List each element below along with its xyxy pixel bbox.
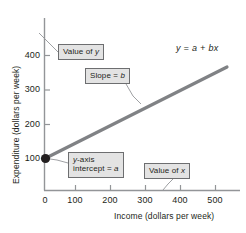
x-tick-label-0: 0 [34, 195, 56, 205]
regression-line [45, 67, 227, 159]
callout-intercept-line2-prefix: intercept = [73, 164, 114, 173]
callout-intercept-line2-var: a [114, 164, 119, 173]
chart-figure: 400 300 200 100 0 100 200 300 400 500 Ex… [0, 0, 246, 233]
y-axis-ticks [45, 56, 51, 159]
x-tick-label-200: 200 [99, 195, 121, 205]
y-axis-title: Expenditure (dollars per week) [11, 66, 21, 184]
callout-value-of-y-prefix: Value of [63, 47, 95, 56]
callout-value-of-x-var: x [181, 166, 185, 175]
x-axis-ticks [76, 185, 216, 191]
callout-slope-prefix: Slope = [90, 71, 120, 80]
callout-value-of-x-prefix: Value of [149, 166, 181, 175]
callout-slope-b: Slope = b [85, 68, 130, 84]
leader-intercept [50, 159, 68, 163]
x-tick-label-100: 100 [64, 195, 86, 205]
callout-y-intercept: y-axisintercept = a [68, 152, 124, 178]
y-tick-label-400: 400 [16, 50, 40, 60]
x-tick-label-500: 500 [204, 195, 226, 205]
leader-value-of-y [39, 33, 58, 52]
callout-slope-var: b [120, 71, 125, 80]
equation-label: y = a + bx [176, 43, 219, 53]
callout-value-of-x: Value of x [144, 163, 190, 179]
x-tick-label-300: 300 [134, 195, 156, 205]
callout-intercept-line1-suffix: -axis [77, 155, 94, 164]
y-intercept-point [41, 154, 50, 163]
callout-value-of-y-var: y [95, 47, 99, 56]
x-axis-title: Income (dollars per week) [114, 211, 214, 221]
callout-value-of-y: Value of y [58, 44, 104, 60]
x-tick-label-400: 400 [169, 195, 191, 205]
